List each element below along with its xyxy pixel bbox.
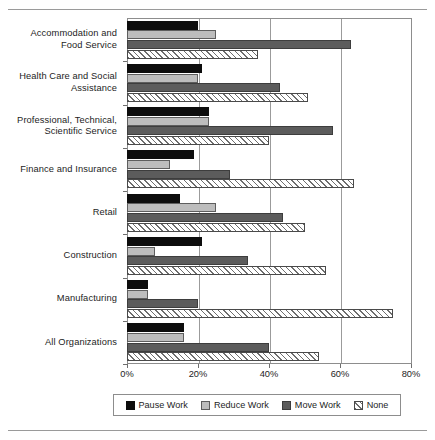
x-axis-tick: [127, 364, 128, 368]
legend-swatch-icon: [282, 401, 291, 410]
y-axis-label: Finance and Insurance: [20, 164, 117, 176]
bar: [127, 117, 209, 126]
bar: [127, 93, 308, 102]
legend-item[interactable]: Pause Work: [126, 400, 188, 410]
bar: [127, 323, 184, 332]
bar: [127, 352, 319, 361]
legend-item[interactable]: None: [354, 400, 389, 410]
y-axis-label: Professional, Technical, Scientific Serv…: [17, 115, 117, 138]
bar: [127, 256, 248, 265]
chart-legend: Pause WorkReduce WorkMove WorkNone: [113, 394, 401, 416]
x-axis-tick: [340, 364, 341, 368]
x-axis-tick-label: 80%: [402, 369, 421, 379]
legend-label: Pause Work: [139, 400, 188, 410]
bar-group: [127, 194, 412, 232]
y-axis-label: Construction: [64, 250, 117, 262]
bar: [127, 237, 202, 246]
bar: [127, 21, 198, 30]
bar-group: [127, 107, 412, 145]
x-axis-tick-label: 60%: [331, 369, 350, 379]
bar: [127, 40, 351, 49]
y-axis-label: Manufacturing: [57, 293, 117, 305]
y-axis-tick: [123, 234, 127, 235]
legend-item[interactable]: Move Work: [282, 400, 341, 410]
bar: [127, 213, 283, 222]
legend-swatch-icon: [201, 401, 210, 410]
bar: [127, 126, 333, 135]
y-axis-tick: [123, 278, 127, 279]
y-axis-label: All Organizations: [45, 337, 117, 349]
legend-swatch-icon: [354, 401, 363, 410]
legend-item[interactable]: Reduce Work: [201, 400, 269, 410]
y-axis-tick: [123, 148, 127, 149]
bar: [127, 309, 393, 318]
bar-group: [127, 323, 412, 361]
x-axis-tick-label: 20%: [189, 369, 208, 379]
bar: [127, 107, 209, 116]
bar: [127, 74, 198, 83]
legend-label: Reduce Work: [214, 400, 269, 410]
y-axis-tick: [123, 191, 127, 192]
x-axis-tick-label: 0%: [120, 369, 133, 379]
legend-swatch-icon: [126, 401, 135, 410]
bottom-divider-rule: [8, 430, 427, 431]
y-axis-tick: [123, 321, 127, 322]
bar: [127, 290, 148, 299]
bar-group: [127, 64, 412, 102]
y-axis-label: Health Care and Social Assistance: [19, 71, 117, 94]
x-axis-tick: [198, 364, 199, 368]
y-axis-label: Accommodation and Food Service: [31, 28, 117, 51]
legend-label: Move Work: [295, 400, 341, 410]
bar: [127, 223, 305, 232]
y-axis-tick: [123, 61, 127, 62]
x-axis-tick: [411, 364, 412, 368]
bar: [127, 136, 269, 145]
chart-figure: Accommodation and Food ServiceHealth Car…: [0, 0, 435, 440]
bar: [127, 50, 258, 59]
bar: [127, 299, 198, 308]
bar: [127, 247, 155, 256]
y-axis-labels: Accommodation and Food ServiceHealth Car…: [0, 18, 123, 364]
bar: [127, 266, 326, 275]
top-divider-rule: [8, 9, 427, 10]
bar-group: [127, 280, 412, 318]
bar: [127, 179, 354, 188]
bar: [127, 203, 216, 212]
bar-group: [127, 237, 412, 275]
bar: [127, 83, 280, 92]
y-axis-tick: [123, 105, 127, 106]
legend-label: None: [367, 400, 389, 410]
bar: [127, 160, 170, 169]
bar-group: [127, 150, 412, 188]
bar: [127, 194, 180, 203]
x-axis-tick: [269, 364, 270, 368]
bar: [127, 170, 230, 179]
x-axis: 0%20%40%60%80%: [127, 364, 412, 384]
bar: [127, 30, 216, 39]
bar: [127, 150, 194, 159]
bar: [127, 280, 148, 289]
x-axis-tick-label: 40%: [260, 369, 279, 379]
y-axis-label: Retail: [93, 207, 117, 219]
bar: [127, 333, 184, 342]
bar-group: [127, 21, 412, 59]
bar: [127, 64, 202, 73]
bar-groups: [127, 18, 412, 364]
bar: [127, 343, 269, 352]
